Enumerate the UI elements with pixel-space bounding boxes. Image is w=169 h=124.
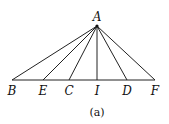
triangle-diagram: A BECIDF (a) [0, 0, 169, 124]
label-B: B [7, 84, 17, 98]
label-D: D [121, 84, 132, 98]
segment-AB [12, 26, 97, 80]
label-E: E [38, 84, 48, 98]
label-F: F [150, 84, 160, 98]
segment-AC [69, 26, 97, 80]
base-labels: BECIDF [7, 84, 160, 98]
caption: (a) [89, 106, 104, 119]
segment-AD [97, 26, 127, 80]
label-A: A [92, 10, 102, 24]
apex-point [95, 24, 98, 27]
diagram-lines [12, 26, 155, 80]
segment-AF [97, 26, 155, 80]
segment-AE [43, 26, 97, 80]
label-I: I [94, 84, 100, 98]
label-C: C [64, 84, 73, 98]
